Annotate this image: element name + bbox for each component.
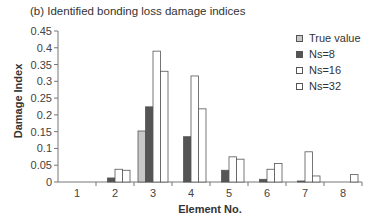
bar [199, 109, 207, 182]
y-tick-label: 0.3 [37, 75, 52, 87]
bar [222, 170, 230, 182]
legend-swatch-icon [296, 51, 303, 58]
y-tick-label: 0.35 [31, 59, 52, 71]
legend-item: Ns=16 [296, 62, 361, 78]
bar [260, 179, 268, 182]
bar [313, 176, 321, 182]
bar [115, 169, 123, 182]
bar [298, 181, 306, 182]
legend-swatch-icon [296, 67, 303, 74]
x-tick-label: 8 [340, 187, 346, 199]
bar [229, 157, 237, 182]
y-tick-label: 0.1 [37, 142, 52, 154]
legend-item: Ns=32 [296, 78, 361, 94]
y-tick-label: 0.05 [31, 159, 52, 171]
bar [184, 137, 192, 182]
y-tick-label: 0 [46, 176, 52, 188]
legend-label: Ns=16 [309, 64, 341, 76]
y-tick-label: 0.25 [31, 92, 52, 104]
bar [191, 76, 199, 182]
bar [237, 159, 245, 182]
x-tick-label: 7 [302, 187, 308, 199]
legend-swatch-icon [296, 35, 303, 42]
chart-container: (b) Identified bonding loss damage indic… [0, 0, 376, 222]
x-tick-label: 1 [74, 187, 80, 199]
legend-item: Ns=8 [296, 46, 361, 62]
legend-item: True value [296, 30, 361, 46]
legend-swatch-icon [296, 83, 303, 90]
legend-label: Ns=32 [309, 80, 341, 92]
x-tick-label: 5 [226, 187, 232, 199]
x-tick-label: 6 [264, 187, 270, 199]
bar [123, 170, 131, 182]
x-tick-label: 3 [150, 187, 156, 199]
legend: True valueNs=8Ns=16Ns=32 [296, 30, 361, 94]
legend-label: True value [309, 32, 361, 44]
y-tick-label: 0.2 [37, 109, 52, 121]
bar [161, 71, 169, 182]
bar [146, 107, 154, 182]
bar [267, 169, 275, 182]
bar [138, 131, 146, 182]
bar [153, 51, 161, 182]
bar [351, 175, 359, 182]
legend-label: Ns=8 [309, 48, 335, 60]
x-axis-label: Element No. [160, 203, 260, 215]
y-tick-label: 0.15 [31, 126, 52, 138]
y-tick-label: 0.45 [31, 25, 52, 37]
x-tick-label: 4 [188, 187, 194, 199]
x-tick-label: 2 [112, 187, 118, 199]
y-tick-label: 0.4 [37, 42, 52, 54]
bar [275, 164, 283, 182]
bar [108, 178, 116, 182]
y-axis-label: Damage Index [12, 61, 24, 141]
bar [305, 152, 313, 182]
